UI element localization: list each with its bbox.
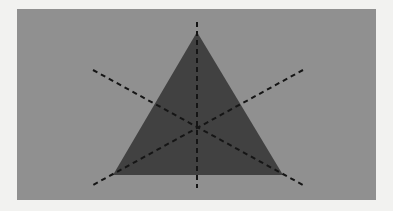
figure-container: Equilateral triangle with three dashed l…	[0, 0, 393, 211]
triangle-symmetry-diagram	[0, 0, 393, 211]
